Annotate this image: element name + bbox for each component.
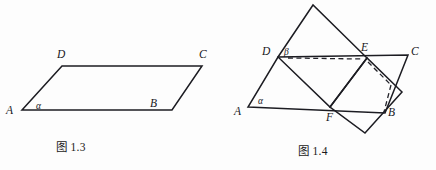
geometry-figure-board: A B C D α A B C D E F α β: [0, 0, 436, 170]
vertex-label-b-fig14: B: [388, 106, 395, 118]
angle-label-beta-fig14: β: [283, 47, 289, 57]
figure-1-3-group: A B C D α: [5, 48, 207, 116]
vertex-label-a-fig13: A: [5, 104, 14, 116]
vertex-label-d-fig13: D: [56, 48, 66, 60]
figure-caption-1-4: 图 1.4: [298, 142, 328, 158]
vertex-label-e-fig14: E: [360, 41, 368, 53]
figure-1-4-group: A B C D E F α β: [233, 5, 419, 133]
vertex-label-c-fig13: C: [199, 48, 207, 60]
vertex-label-b-fig13: B: [150, 97, 157, 109]
vertex-label-c-fig14: C: [411, 45, 419, 57]
vertex-label-a-fig14: A: [233, 105, 242, 117]
parallelogram-abcd-outline: [22, 66, 202, 110]
figure-caption-1-3: 图 1.3: [56, 138, 86, 154]
vertex-label-d-fig14: D: [261, 45, 271, 57]
vertex-label-f-fig14: F: [325, 111, 334, 123]
angle-label-alpha-fig14: α: [258, 96, 264, 106]
hidden-edge-de-fig14: [288, 58, 363, 59]
hidden-edge-e-to-corner-fig14: [368, 62, 391, 85]
